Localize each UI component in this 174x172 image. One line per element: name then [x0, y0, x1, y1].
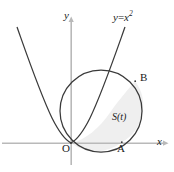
- shaded-region-st: [71, 81, 143, 151]
- curve-equation-exponent: 2: [129, 9, 133, 18]
- curve-equation-label: y=x2: [113, 10, 133, 23]
- point-a-label: A: [117, 143, 125, 154]
- figure-canvas: [0, 0, 174, 172]
- point-b-marker: [134, 80, 136, 82]
- region-area-label: S(t): [112, 112, 126, 122]
- y-axis-label: y: [64, 10, 69, 21]
- x-axis-arrow-icon: [163, 141, 169, 146]
- point-b-label: B: [140, 72, 147, 83]
- origin-label: O: [62, 143, 70, 154]
- point-o-marker: [70, 142, 72, 144]
- y-axis-arrow-icon: [69, 17, 74, 23]
- math-figure: y=x2 y x O A B S(t): [0, 0, 174, 172]
- x-axis-label: x: [157, 136, 162, 147]
